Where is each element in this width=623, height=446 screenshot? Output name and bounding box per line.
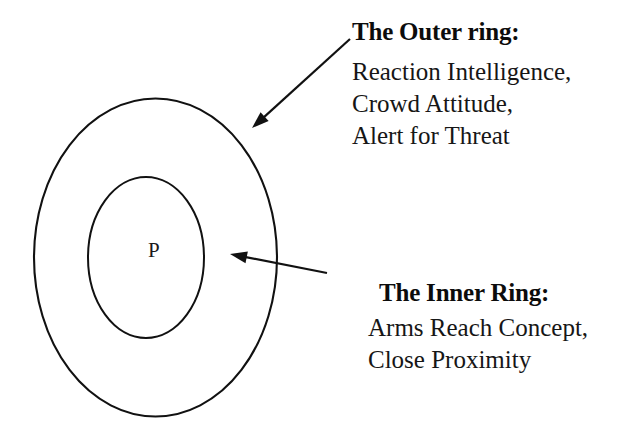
outer-ring-callout-body: Reaction Intelligence, Crowd Attitude, A… — [352, 56, 571, 152]
inner-ring-arrow-line — [241, 256, 327, 273]
center-point-label: P — [148, 240, 160, 261]
outer-ring-callout: The Outer ring: Reaction Intelligence, C… — [352, 18, 571, 152]
inner-ring-callout-line-2: Close Proximity — [368, 344, 588, 376]
inner-ring-callout-body: Arms Reach Concept, Close Proximity — [368, 312, 588, 376]
outer-ring-callout-line-2: Crowd Attitude, — [352, 88, 571, 120]
inner-ring-callout-heading: The Inner Ring: — [379, 279, 588, 308]
inner-ring-callout-line-1: Arms Reach Concept, — [368, 312, 588, 344]
inner-ring-arrow-head — [230, 251, 248, 263]
inner-ring-ellipse — [88, 177, 204, 338]
outer-ring-arrow — [252, 39, 350, 128]
diagram-canvas: P The Outer ring: Reaction Intelligence,… — [0, 0, 623, 446]
outer-ring-callout-line-3: Alert for Threat — [352, 120, 571, 152]
outer-ring-arrow-line — [260, 39, 350, 121]
outer-ring-callout-heading: The Outer ring: — [352, 18, 571, 47]
inner-ring-callout: The Inner Ring: Arms Reach Concept, Clos… — [368, 279, 588, 376]
outer-ring-callout-line-1: Reaction Intelligence, — [352, 56, 571, 88]
inner-ring-arrow — [230, 251, 327, 273]
